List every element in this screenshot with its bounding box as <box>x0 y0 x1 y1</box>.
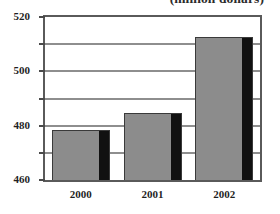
chart-title: (million dollars) <box>170 0 264 7</box>
bar-shadow <box>171 114 181 180</box>
y-axis-label: 500 <box>14 64 31 76</box>
plot-area: 400420440460480500520 <box>43 15 262 182</box>
bar <box>195 37 253 180</box>
bar <box>124 113 182 180</box>
y-axis-tick: 420 <box>39 152 45 154</box>
y-axis-tick: 500 <box>39 43 45 45</box>
y-axis-label: 460 <box>14 173 31 185</box>
y-axis-tick: 520 <box>39 16 45 18</box>
plot-inner: 400420440460480500520 <box>45 17 260 180</box>
y-axis-tick: 480 <box>39 70 45 72</box>
bar-shadow <box>99 131 109 180</box>
bar-chart: (million dollars) 400420440460480500520 … <box>0 0 280 214</box>
x-axis-label: 2001 <box>142 188 164 200</box>
y-axis-label: 520 <box>14 10 31 22</box>
x-axis-label: 2000 <box>70 188 92 200</box>
y-axis-label: 480 <box>14 119 31 131</box>
bar <box>52 130 110 180</box>
y-axis-tick: 440 <box>39 125 45 127</box>
x-axis-label: 2002 <box>213 188 235 200</box>
y-axis-tick: 460 <box>39 98 45 100</box>
y-axis-tick: 400 <box>39 179 45 181</box>
bar-shadow <box>242 38 252 180</box>
